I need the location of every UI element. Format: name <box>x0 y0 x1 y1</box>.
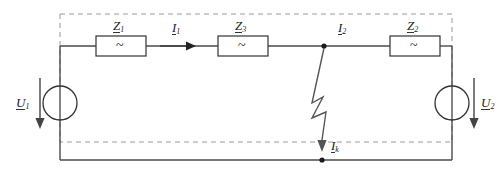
impedance-label-z2-sub: 2 <box>414 25 418 34</box>
current-label-i1-sub: 1 <box>176 27 180 36</box>
voltage-arrow-u2-head <box>469 118 478 129</box>
impedance-label-z3: Z3 <box>235 19 246 33</box>
ac-symbol-z1: ~ <box>116 39 124 53</box>
impedance-label-z2: Z2 <box>407 19 418 33</box>
circuit-diagram-canvas: ~ ~ ~ Z1 Z3 Z2 I1 I2 Ik U1 U2 <box>0 0 502 175</box>
short-circuit-lightning-icon <box>312 48 326 140</box>
junction-dot-top <box>321 43 326 48</box>
impedance-label-z3-sub: 3 <box>242 25 246 34</box>
circuit-schematic <box>0 0 502 175</box>
voltage-label-u2: U2 <box>481 96 494 110</box>
voltage-label-u1-base: U <box>16 96 25 110</box>
voltage-label-u2-base: U <box>481 96 490 110</box>
impedance-label-z1: Z1 <box>113 19 124 33</box>
voltage-label-u2-sub: 2 <box>490 102 494 111</box>
ac-symbol-z3: ~ <box>238 39 246 53</box>
network-boundary-dashed <box>60 14 452 142</box>
voltage-label-u1: U1 <box>16 96 29 110</box>
voltage-arrow-u1-head <box>35 118 44 129</box>
current-label-i2-sub: 2 <box>342 27 346 36</box>
fault-current-arrow-head <box>317 140 326 152</box>
impedance-label-z1-sub: 1 <box>120 25 124 34</box>
junction-dot-bottom <box>319 157 324 162</box>
voltage-label-u1-sub: 1 <box>25 102 29 111</box>
current-label-ik-sub: k <box>335 145 339 154</box>
current-label-i1: I1 <box>172 21 180 35</box>
current-arrow-i1-head <box>186 42 196 51</box>
current-label-ik: Ik <box>331 139 339 153</box>
ac-symbol-z2: ~ <box>410 39 418 53</box>
current-label-i2: I2 <box>338 21 346 35</box>
